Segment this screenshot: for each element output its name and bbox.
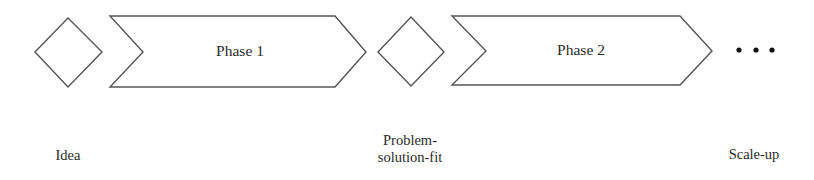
milestone-label-scale-up: Scale-up bbox=[718, 146, 790, 163]
phase-2-label: Phase 2 bbox=[536, 41, 626, 59]
milestone-diamond-idea bbox=[35, 18, 102, 87]
phase-1-label: Phase 1 bbox=[195, 42, 285, 60]
milestone-label-line1: Problem- bbox=[360, 132, 460, 149]
milestone-label-problem-solution-fit: Problem- solution-fit bbox=[360, 132, 460, 166]
milestone-diamond-problem-solution-fit bbox=[378, 17, 444, 86]
milestone-label-line2: solution-fit bbox=[360, 149, 460, 166]
ellipsis-dots-icon bbox=[736, 47, 774, 52]
milestone-label-idea: Idea bbox=[45, 147, 91, 164]
